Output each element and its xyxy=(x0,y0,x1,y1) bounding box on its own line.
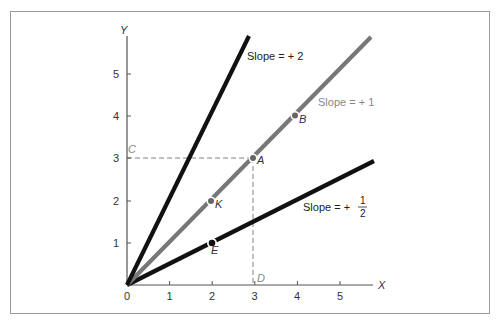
fraction-denominator: 2 xyxy=(360,208,366,219)
x-axis-label: X xyxy=(377,279,386,291)
point-b-label: B xyxy=(299,113,306,125)
y-tick-label: 2 xyxy=(113,195,119,207)
y-tick-label: 5 xyxy=(113,68,119,80)
x-tick-label: 3 xyxy=(252,290,258,302)
point-a-label: A xyxy=(256,154,264,166)
slope-two-label: Slope = + 2 xyxy=(247,50,303,62)
svg-text:Slope = +: Slope = + xyxy=(303,201,350,213)
fraction-numerator: 1 xyxy=(360,195,366,206)
point-d-label: D xyxy=(257,272,265,284)
slope-one-label: Slope = + 1 xyxy=(318,96,374,108)
x-tick-label: 2 xyxy=(209,290,215,302)
point-e-label: E xyxy=(211,244,219,256)
y-tick-label: 1 xyxy=(113,237,119,249)
origin-label: 0 xyxy=(124,290,130,302)
y-tick-label: 3 xyxy=(113,152,119,164)
x-tick-label: 1 xyxy=(167,290,173,302)
y-axis-label: Y xyxy=(120,24,128,36)
point-c-label: C xyxy=(128,143,136,155)
y-tick-label: 4 xyxy=(113,110,119,122)
line-slope-one xyxy=(127,37,371,285)
slope-half-label: Slope = + 1 2 xyxy=(303,195,367,219)
line-slope-half xyxy=(127,161,374,285)
slope-chart: 0 1 2 3 4 5 1 2 3 4 5 Y X A B K E C D Sl… xyxy=(0,0,500,327)
x-tick-label: 4 xyxy=(294,290,300,302)
x-tick-label: 5 xyxy=(337,290,343,302)
line-slope-two xyxy=(127,36,249,285)
point-k-label: K xyxy=(215,198,223,210)
